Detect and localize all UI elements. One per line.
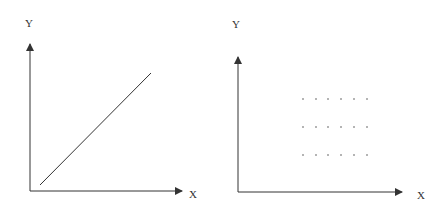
left-y-axis-label: Y: [25, 17, 33, 29]
grid-dot: [366, 98, 368, 100]
grid-dot: [340, 126, 342, 128]
grid-dot: [340, 98, 342, 100]
grid-dot: [315, 98, 317, 100]
grid-dot: [327, 98, 329, 100]
grid-dot: [315, 126, 317, 128]
grid-dot: [327, 154, 329, 156]
grid-dot: [353, 126, 355, 128]
diagram-canvas: Y X Y X: [0, 0, 445, 212]
grid-dot: [340, 154, 342, 156]
grid-dot: [315, 154, 317, 156]
grid-dot: [302, 154, 304, 156]
right-panel: Y X: [232, 18, 425, 201]
grid-dot: [353, 154, 355, 156]
grid-dot: [327, 126, 329, 128]
grid-dot: [353, 98, 355, 100]
grid-dot: [366, 126, 368, 128]
right-y-axis-label: Y: [232, 18, 240, 30]
left-x-axis-label: X: [189, 188, 197, 200]
grid-dot: [302, 98, 304, 100]
grid-dot: [302, 126, 304, 128]
dot-grid: [302, 98, 368, 156]
right-x-axis-label: X: [417, 189, 425, 201]
left-panel: Y X: [25, 17, 197, 200]
grid-dot: [366, 154, 368, 156]
linear-relationship-line: [40, 73, 151, 185]
